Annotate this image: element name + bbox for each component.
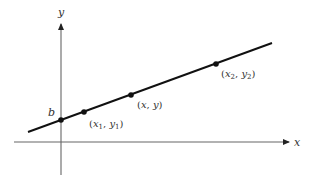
point-x2-y2 [213, 61, 219, 67]
x-axis-label: x [294, 136, 301, 149]
point-x1-y1-label: (x1, y1) [89, 118, 124, 131]
point-x2-y2-label: (x2, y2) [221, 68, 256, 81]
line-graph-diagram: y x b (x1, y1) (x, y) (x2, y2) [0, 0, 313, 189]
y-intercept-point [58, 117, 64, 123]
intercept-label: b [48, 106, 55, 119]
point-x-y [128, 92, 134, 98]
point-x-y-label: (x, y) [137, 99, 163, 110]
linear-function-line [28, 43, 272, 132]
point-x1-y1 [81, 109, 87, 115]
y-axis-label: y [57, 6, 65, 19]
